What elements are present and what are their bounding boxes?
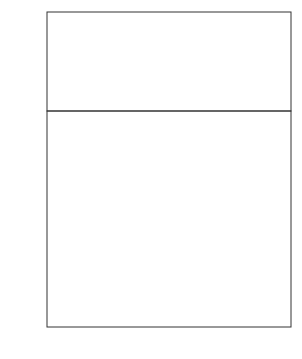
histogram-figure [0, 0, 302, 359]
top-plot-frame [47, 12, 291, 111]
bottom-plot-frame [47, 111, 291, 327]
bottom-panel [47, 111, 291, 327]
top-panel [47, 12, 291, 111]
